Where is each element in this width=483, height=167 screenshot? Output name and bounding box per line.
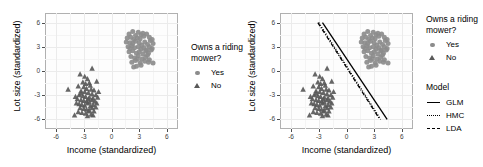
legend-key [191,79,206,92]
x-tick-mark [139,129,140,132]
scatter-point-no [331,89,337,94]
scatter-point-yes [140,31,145,36]
legend-title: Model [426,82,483,93]
triangle-icon [194,83,200,88]
x-tick-label: -6 [46,133,66,141]
y-tick-label: -3 [261,91,275,99]
legend-item-label: No [206,81,221,90]
x-tick-label: 6 [392,133,412,141]
y-tick-mark [277,71,280,72]
legend-owns-mower: Owns a riding mower? YesNo [426,14,483,64]
scatter-point-yes [381,60,386,65]
x-tick-mark [402,129,403,132]
legend-item-yes[interactable]: Yes [426,38,483,51]
x-tick-mark [374,129,375,132]
plot-area-right [280,13,413,129]
x-tick-mark [112,129,113,132]
x-axis-title: Income (standardized) [280,145,413,155]
x-axis-title: Income (standardized) [45,145,178,155]
x-tick-mark [291,129,292,132]
scatter-point-yes [150,37,155,42]
y-tick-mark [277,119,280,120]
legend-item-label: GLM [441,98,463,107]
legend-key [426,51,441,64]
y-tick-label: -3 [26,91,40,99]
y-tick-mark [42,95,45,96]
x-tick-mark [319,129,320,132]
dashed-line-icon [427,128,440,129]
scatter-point-yes [375,31,380,36]
panel-right: -6-3036 630-3-6 Income (standardized) Lo… [235,0,470,167]
legend-item-lda[interactable]: LDA [426,122,483,135]
y-tick-mark [277,95,280,96]
scatter-point-yes [384,48,389,53]
legend-item-label: LDA [441,124,462,133]
y-tick-mark [42,71,45,72]
x-tick-label: 6 [157,133,177,141]
scatter-point-yes [139,63,144,68]
legend-title: Owns a riding mower? [426,14,483,35]
scatter-point-no [329,78,335,83]
x-tick-mark [56,129,57,132]
y-tick-mark [42,47,45,48]
scatter-point-yes [149,48,154,53]
scatter-point-yes [366,64,371,69]
legend-key [426,38,441,51]
scatter-point-no [94,78,100,83]
y-tick-label: -6 [261,115,275,123]
legend-item-label: No [441,53,456,62]
scatter-point-yes [362,46,367,51]
scatter-point-yes [135,56,140,61]
panel-left: -6-3036 630-3-6 Income (standardized) Lo… [0,0,235,167]
scatter-point-no [65,87,71,92]
y-tick-mark [277,47,280,48]
plot-area-left [45,13,178,129]
scatter-point-yes [386,60,391,65]
x-tick-mark [84,129,85,132]
y-tick-mark [42,119,45,120]
scatter-point-no [77,71,83,76]
scatter-point-yes [131,64,136,69]
solid-line-icon [427,102,440,103]
scatter-layer-left [45,13,178,129]
legend-item-label: HMC [441,111,464,120]
legend-item-glm[interactable]: GLM [426,96,483,109]
scatter-point-yes [370,56,375,61]
legend-key [426,96,441,109]
legend-item-label: Yes [441,40,459,49]
scatter-point-yes [380,52,385,57]
triangle-icon [429,55,435,60]
x-tick-label: 3 [129,133,149,141]
x-tick-label: 0 [337,133,357,141]
legend-model: Model GLMHMCLDA [426,82,483,135]
scatter-point-no [75,83,81,88]
x-tick-mark [347,129,348,132]
circle-icon [430,43,435,48]
x-tick-mark [167,129,168,132]
legend-item-label: Yes [206,68,224,77]
y-axis-title: Lot size (standardized) [247,8,257,124]
legend-key [426,122,441,135]
x-tick-label: -6 [281,133,301,141]
legend-item-hmc[interactable]: HMC [426,109,483,122]
scatter-point-yes [145,52,150,57]
legend-items: YesNo [426,38,483,64]
y-tick-label: 0 [26,67,40,75]
circle-icon [195,71,200,76]
scatter-point-yes [146,60,151,65]
legend-items: GLMHMCLDA [426,96,483,135]
y-axis-title: Lot size (standardized) [12,8,22,124]
scatter-point-no [89,66,95,71]
legend-item-no[interactable]: No [426,51,483,64]
legend-key [426,109,441,122]
y-tick-mark [277,23,280,24]
y-tick-mark [42,23,45,24]
y-tick-label: 0 [261,67,275,75]
scatter-point-yes [151,60,156,65]
scatter-point-no [312,71,318,76]
scatter-point-yes [374,63,379,68]
legend-key [191,66,206,79]
x-tick-label: 0 [102,133,122,141]
x-tick-label: -3 [309,133,329,141]
